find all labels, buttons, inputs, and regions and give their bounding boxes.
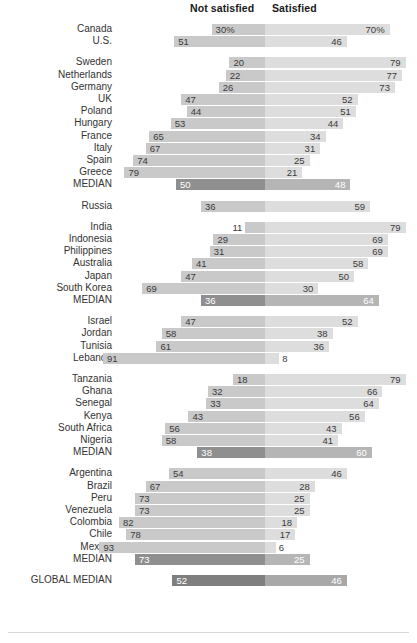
value-satisfied: 79	[265, 57, 401, 68]
bar-not-satisfied	[142, 283, 265, 294]
row-label-india: India	[0, 221, 112, 233]
bar-not-satisfied	[126, 529, 265, 540]
value-satisfied: 25	[265, 554, 305, 565]
row-label-nigeria: Nigeria	[0, 434, 112, 446]
value-not-satisfied: 36	[205, 201, 216, 212]
value-satisfied: 44	[265, 118, 338, 129]
row-label-chile: Chile	[0, 528, 112, 540]
value-not-satisfied: 18	[237, 374, 248, 385]
value-not-satisfied: 56	[169, 423, 180, 434]
value-not-satisfied: 22	[230, 70, 241, 81]
value-not-satisfied: 38	[201, 447, 212, 458]
value-not-satisfied: 73	[139, 493, 150, 504]
value-not-satisfied: 33	[210, 398, 221, 409]
bar-not-satisfied	[146, 481, 265, 492]
value-not-satisfied: 50	[180, 179, 191, 190]
row-label-brazil: Brazil	[0, 480, 112, 492]
table-row: Venezuela7325	[0, 505, 417, 516]
value-satisfied: 69	[265, 234, 383, 245]
table-row: Indonesia2969	[0, 234, 417, 245]
value-not-satisfied: 32	[212, 386, 223, 397]
value-satisfied: 28	[265, 481, 310, 492]
row-label-u-s-: U.S.	[0, 35, 112, 47]
value-satisfied: 25	[265, 155, 305, 166]
row-label-france: France	[0, 130, 112, 142]
table-row: Senegal3364	[0, 398, 417, 409]
row-label-greece: Greece	[0, 166, 112, 178]
table-row: Israel4752	[0, 316, 417, 327]
value-not-satisfied: 51	[178, 36, 189, 47]
value-not-satisfied: 30%	[216, 24, 235, 35]
table-row: Tunisia6136	[0, 341, 417, 352]
table-row: MEDIAN3664	[0, 295, 417, 306]
bar-satisfied	[265, 542, 276, 553]
table-row: U.S.5146	[0, 36, 417, 47]
row-label-south-korea: South Korea	[0, 282, 112, 294]
value-not-satisfied: 47	[185, 94, 196, 105]
value-satisfied: 66	[265, 386, 377, 397]
row-label-median: MEDIAN	[0, 553, 112, 565]
row-label-lebanon: Lebanon	[0, 352, 112, 364]
value-satisfied: 56	[265, 411, 360, 422]
bar-not-satisfied	[162, 435, 265, 446]
bar-not-satisfied	[135, 554, 265, 565]
row-label-philippines: Philippines	[0, 245, 112, 257]
value-not-satisfied: 47	[185, 271, 196, 282]
row-label-mexico: Mexico	[0, 541, 112, 553]
row-label-japan: Japan	[0, 270, 112, 282]
table-row: Tanzania1879	[0, 374, 417, 385]
value-satisfied: 79	[265, 374, 401, 385]
value-satisfied: 60	[265, 447, 367, 458]
value-not-satisfied: 74	[137, 155, 148, 166]
bar-not-satisfied	[135, 493, 265, 504]
row-label-colombia: Colombia	[0, 516, 112, 528]
value-not-satisfied: 91	[107, 353, 118, 364]
table-row: Russia3659	[0, 201, 417, 212]
row-label-germany: Germany	[0, 81, 112, 93]
value-not-satisfied: 58	[166, 328, 177, 339]
table-row: Spain7425	[0, 155, 417, 166]
value-satisfied: 36	[265, 341, 324, 352]
value-not-satisfied: 93	[103, 542, 114, 553]
bar-not-satisfied	[99, 542, 265, 553]
value-satisfied: 64	[265, 295, 374, 306]
row-label-netherlands: Netherlands	[0, 69, 112, 81]
value-not-satisfied: 58	[166, 435, 177, 446]
value-not-satisfied: 36	[205, 295, 216, 306]
row-label-median: MEDIAN	[0, 446, 112, 458]
table-row: Lebanon918	[0, 353, 417, 364]
table-row: Colombia8218	[0, 517, 417, 528]
table-row: South Korea6930	[0, 283, 417, 294]
table-row: Australia4158	[0, 258, 417, 269]
row-label-hungary: Hungary	[0, 117, 112, 129]
value-satisfied: 31	[265, 143, 315, 154]
value-satisfied: 38	[265, 328, 328, 339]
table-row: Philippines3169	[0, 246, 417, 257]
value-not-satisfied: 73	[139, 505, 150, 516]
value-satisfied: 41	[265, 435, 333, 446]
value-satisfied: 58	[265, 258, 363, 269]
value-satisfied: 79	[265, 222, 401, 233]
value-satisfied: 52	[265, 94, 353, 105]
table-row: South Africa5643	[0, 423, 417, 434]
bar-not-satisfied	[149, 131, 265, 142]
value-satisfied: 77	[265, 70, 397, 81]
value-satisfied: 64	[265, 398, 374, 409]
bar-not-satisfied	[156, 341, 265, 352]
row-label-senegal: Senegal	[0, 397, 112, 409]
value-satisfied: 43	[265, 423, 337, 434]
value-not-satisfied: 73	[139, 554, 150, 565]
value-not-satisfied: 54	[173, 468, 184, 479]
row-label-kenya: Kenya	[0, 410, 112, 422]
value-not-satisfied: 69	[146, 283, 157, 294]
table-row: Mexico936	[0, 542, 417, 553]
value-satisfied: 18	[265, 517, 292, 528]
table-row: Peru7325	[0, 493, 417, 504]
row-label-sweden: Sweden	[0, 56, 112, 68]
value-not-satisfied: 43	[192, 411, 203, 422]
value-not-satisfied: 52	[176, 575, 187, 586]
row-label-venezuela: Venezuela	[0, 504, 112, 516]
row-label-israel: Israel	[0, 315, 112, 327]
value-not-satisfied: 82	[123, 517, 134, 528]
value-satisfied: 8	[282, 353, 300, 364]
